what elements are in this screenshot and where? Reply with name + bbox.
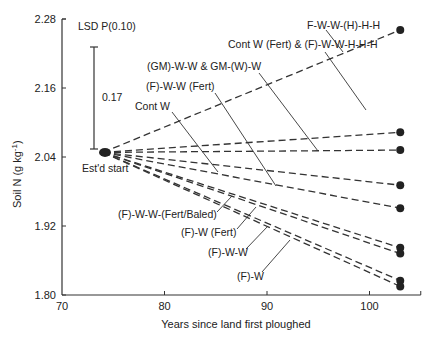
x-axis-title: Years since land first ploughed — [161, 318, 310, 330]
soil-n-line-chart: 1.801.922.042.162.28708090100Years since… — [0, 0, 438, 344]
series-label: (F)-W (Fert) — [181, 226, 236, 238]
start-point-marker — [99, 148, 111, 157]
leader-line — [259, 73, 318, 151]
series-label: (F)-W — [237, 270, 264, 282]
y-tick-label: 1.80 — [35, 289, 56, 301]
series-end-marker — [396, 181, 404, 189]
series-end-marker — [396, 128, 404, 136]
series-line — [103, 152, 400, 185]
y-tick-label: 2.16 — [35, 82, 56, 94]
series-end-marker — [396, 250, 404, 258]
lsd-value: 0.17 — [102, 91, 123, 103]
leader-line — [237, 207, 256, 229]
series-label: (F)-W-W — [208, 246, 248, 258]
lsd-title: LSD P(0.10) — [78, 20, 136, 32]
x-tick-label: 100 — [360, 300, 378, 312]
series-label: (F)-W-W-(Fert/Baled) — [118, 208, 217, 220]
series-label: Cont W (Fert) & (F)-W-W-H-H-H — [228, 38, 378, 50]
series-end-marker — [396, 282, 404, 290]
leader-line — [217, 196, 232, 212]
series-line — [103, 150, 400, 152]
y-axis-title: Soil N (g kg-1) — [10, 140, 23, 208]
leader-line — [325, 52, 366, 110]
series-end-marker — [396, 204, 404, 212]
x-tick-label: 70 — [56, 300, 68, 312]
series-label: (GM)-W-W & GM-(W)-W — [147, 60, 261, 72]
x-tick-label: 90 — [261, 300, 273, 312]
start-label: Est'd start — [82, 162, 128, 174]
leader-line — [246, 226, 268, 249]
series-label: F-W-W-(H)-H-H — [307, 19, 380, 31]
series-label: (F)-W-W (Fert) — [146, 80, 215, 92]
x-tick-label: 80 — [158, 300, 170, 312]
series-end-marker — [396, 26, 404, 34]
series-end-marker — [396, 146, 404, 154]
y-tick-label: 2.28 — [35, 13, 56, 25]
leader-line — [262, 240, 290, 272]
series-label: Cont W — [135, 100, 170, 112]
lsd-error-bar: LSD P(0.10)0.17 — [78, 20, 136, 149]
y-tick-label: 1.92 — [35, 220, 56, 232]
y-tick-label: 2.04 — [35, 151, 56, 163]
series-line — [103, 152, 400, 253]
leader-line — [215, 93, 276, 186]
